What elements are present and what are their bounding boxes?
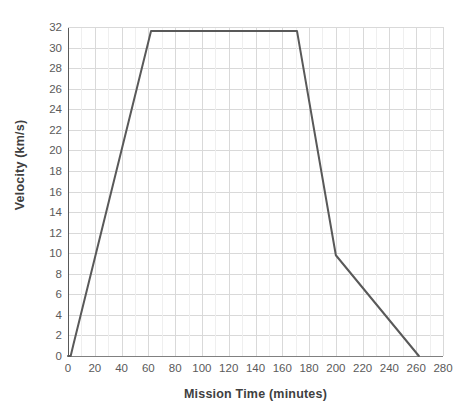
gridlines [68, 27, 444, 356]
plot-area [0, 0, 476, 419]
velocity-mission-time-chart: Velocity (km/s) 024681012141618202224262… [0, 0, 476, 419]
axis-lines [68, 27, 444, 357]
data-series [68, 31, 419, 356]
x-axis-title: Mission Time (minutes) [68, 386, 443, 402]
series-line-0 [68, 31, 419, 356]
